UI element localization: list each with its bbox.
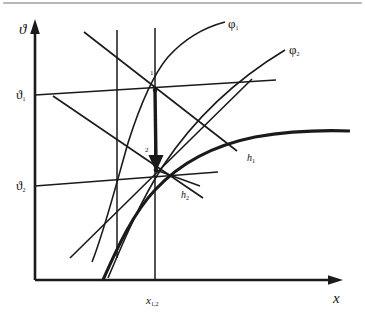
y-axis-arrowhead: [30, 19, 40, 34]
enthalpy-label-h1: h1: [247, 148, 255, 164]
y-tick-label-theta2: ϑ2: [16, 177, 25, 193]
x-axis-label: x: [333, 291, 340, 306]
enthalpy-label-h2: h2: [181, 185, 189, 201]
state-point-1-marker: [153, 88, 158, 93]
curve-label-phi1: φ1: [228, 15, 239, 31]
y-tick-label-theta1: ϑ1: [16, 86, 25, 102]
x-tick-label-x12: x1,2: [146, 291, 158, 307]
diagram-vector-layer: [0, 0, 365, 320]
isotherm-theta2-line: [35, 172, 218, 186]
axes-group: [30, 19, 343, 285]
curve-label-phi2: φ2: [289, 41, 300, 57]
state-point-1-label: 1: [150, 70, 154, 77]
cooling-process-arrow: [149, 90, 164, 172]
phi1-curve: [92, 22, 225, 262]
diagram-canvas: ϑ x ϑ1 ϑ2 x1,2 φ1 φ2 h1 h2 1 2: [0, 0, 365, 320]
process-arrow-shaft: [155, 90, 156, 163]
y-axis-label: ϑ: [19, 22, 26, 37]
state-point-2-marker: [154, 168, 159, 173]
mixing-line-ascending: [70, 79, 252, 258]
x-axis-arrowhead: [328, 275, 343, 285]
state-point-2-label: 2: [145, 147, 149, 154]
